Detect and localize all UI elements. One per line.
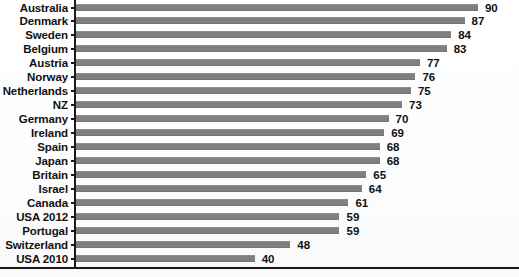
bar-row: USA 201040: [0, 252, 519, 266]
bar: [76, 73, 415, 80]
baseline-axis-line: [0, 267, 519, 269]
category-label: Canada: [0, 196, 68, 210]
bar-value-label: 65: [373, 168, 386, 182]
bar: [76, 227, 339, 234]
category-label: Spain: [0, 140, 68, 154]
category-label: Germany: [0, 112, 68, 126]
bar-row: Austria77: [0, 56, 519, 70]
bar: [76, 241, 290, 248]
category-label: Australia: [0, 1, 68, 15]
category-label: Sweden: [0, 28, 68, 42]
bar: [76, 255, 255, 262]
category-label: Norway: [0, 70, 68, 84]
category-label: USA 2010: [0, 252, 68, 266]
category-label: NZ: [0, 98, 68, 112]
bar-row: Spain68: [0, 140, 519, 154]
category-label: Japan: [0, 154, 68, 168]
bar-value-label: 48: [297, 238, 310, 252]
bar-row: Germany70: [0, 112, 519, 126]
bar-row: Portugal59: [0, 224, 519, 238]
bar: [76, 45, 447, 52]
bar: [76, 4, 478, 11]
bar-row: Australia90: [0, 1, 519, 15]
bar: [76, 199, 348, 206]
bar-row: Norway76: [0, 70, 519, 84]
bar-row: Sweden84: [0, 28, 519, 42]
bar-value-label: 87: [472, 14, 485, 28]
bar-row: Canada61: [0, 196, 519, 210]
bar-value-label: 69: [391, 126, 404, 140]
bar: [76, 101, 402, 108]
category-label: Netherlands: [0, 84, 68, 98]
bar: [76, 87, 411, 94]
bar: [76, 115, 389, 122]
category-label: Ireland: [0, 126, 68, 140]
bar-value-label: 68: [387, 154, 400, 168]
bar-value-label: 75: [418, 84, 431, 98]
bar-row: Ireland69: [0, 126, 519, 140]
bar-row: Britain65: [0, 168, 519, 182]
category-label: Austria: [0, 56, 68, 70]
category-label: Israel: [0, 182, 68, 196]
bar-value-label: 68: [387, 140, 400, 154]
bar-value-label: 90: [485, 1, 498, 15]
category-label: Switzerland: [0, 238, 68, 252]
bar-value-label: 70: [396, 112, 409, 126]
bar: [76, 31, 451, 38]
category-label: Belgium: [0, 42, 68, 56]
bar-value-label: 76: [422, 70, 435, 84]
bar-row: Belgium83: [0, 42, 519, 56]
bar: [76, 185, 362, 192]
bar-value-label: 59: [346, 210, 359, 224]
bar-row: Netherlands75: [0, 84, 519, 98]
bar: [76, 17, 465, 24]
bar: [76, 143, 380, 150]
bar: [76, 171, 366, 178]
bar: [76, 157, 380, 164]
bar-value-label: 59: [346, 224, 359, 238]
bar-row: NZ73: [0, 98, 519, 112]
bar-row: Japan68: [0, 154, 519, 168]
bar: [76, 213, 339, 220]
category-label: Britain: [0, 168, 68, 182]
bar-value-label: 73: [409, 98, 422, 112]
bar: [76, 59, 420, 66]
bar-value-label: 61: [355, 196, 368, 210]
bar-value-label: 83: [454, 42, 467, 56]
bar-row: USA 201259: [0, 210, 519, 224]
category-label: USA 2012: [0, 210, 68, 224]
bar-value-label: 40: [262, 252, 275, 266]
category-label: Portugal: [0, 224, 68, 238]
bar-value-label: 84: [458, 28, 471, 42]
category-label: Denmark: [0, 14, 68, 28]
bar: [76, 129, 384, 136]
bar-row: Israel64: [0, 182, 519, 196]
bar-chart: Australia90Denmark87Sweden84Belgium83Aus…: [0, 0, 519, 277]
bar-row: Denmark87: [0, 14, 519, 28]
bar-value-label: 64: [369, 182, 382, 196]
plot-area: Australia90Denmark87Sweden84Belgium83Aus…: [0, 0, 519, 277]
bar-row: Switzerland48: [0, 238, 519, 252]
bar-value-label: 77: [427, 56, 440, 70]
